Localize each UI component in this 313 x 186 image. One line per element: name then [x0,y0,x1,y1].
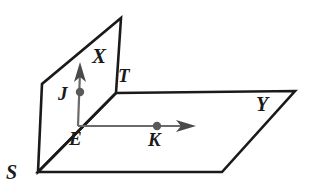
label-y: Y [256,94,268,114]
label-e: E [69,129,82,148]
label-t: T [118,66,130,85]
label-x: X [92,46,106,67]
ray-ej-shaft [78,72,80,126]
point-j-dot [76,88,84,96]
geometry-figure: S X T J E K Y [0,0,313,186]
label-j: J [58,84,68,103]
label-k: K [148,130,161,149]
label-s: S [6,162,17,182]
